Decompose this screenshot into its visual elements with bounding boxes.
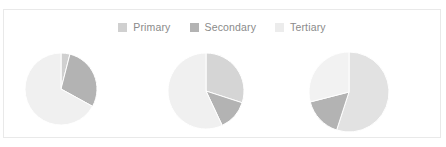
pie-chart-2 xyxy=(168,53,244,129)
pie-chart-1 xyxy=(25,53,97,125)
pie-chart-group xyxy=(4,10,442,139)
pie-chart-card: Primary Secondary Tertiary xyxy=(3,9,441,138)
pie-chart-3 xyxy=(309,52,389,132)
